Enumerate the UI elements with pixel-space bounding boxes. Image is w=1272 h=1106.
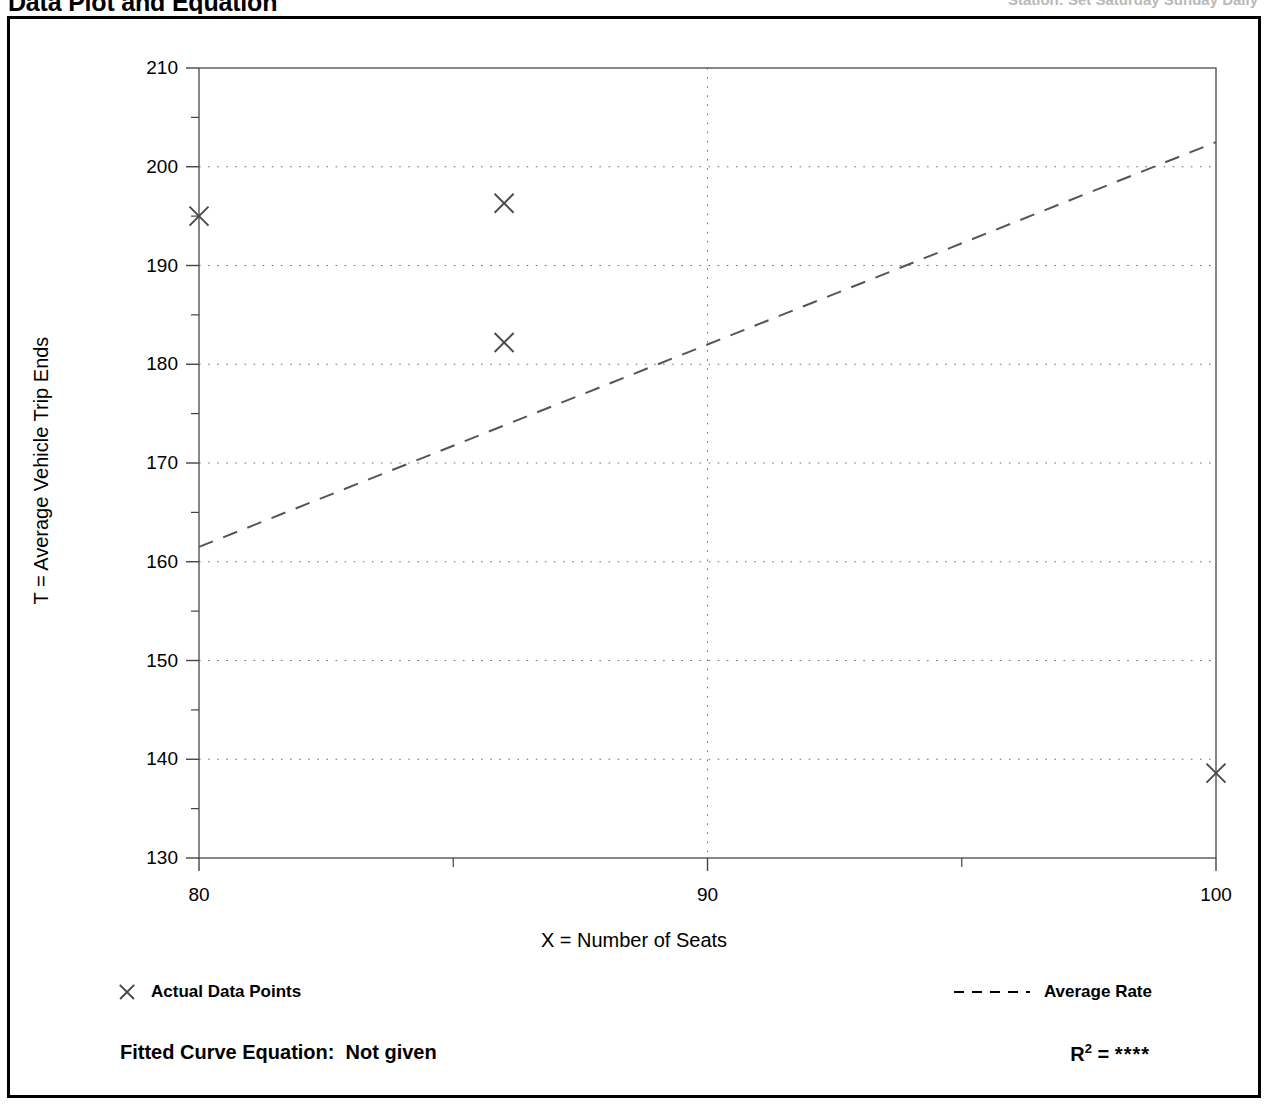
header-strip: Data Plot and Equation Station: Set Satu… (0, 0, 1272, 14)
legend-label-actual-data-points: Actual Data Points (151, 982, 301, 1002)
r-squared-label: R (1070, 1043, 1084, 1065)
chart-canvas: T = Average Vehicle Trip Ends X = Number… (10, 19, 1258, 1095)
legend-item-average-rate: Average Rate (954, 982, 1152, 1002)
r-squared-equals: = (1098, 1043, 1110, 1065)
chart-panel: T = Average Vehicle Trip Ends X = Number… (7, 16, 1261, 1098)
dashed-line-icon (954, 991, 1030, 993)
header-subtitle: Station: Set Saturday Sunday Daily (1008, 0, 1258, 8)
page-title: Data Plot and Equation (8, 0, 277, 14)
chart-legend: Actual Data Points Average Rate (10, 982, 1258, 1018)
r-squared-value: R2 = **** (1070, 1041, 1150, 1066)
data-point-marker (495, 194, 514, 213)
fitted-curve-equation: Fitted Curve Equation: Not given (120, 1041, 437, 1064)
x-marker-icon (117, 982, 137, 1002)
fitted-equation-value: Not given (346, 1041, 437, 1063)
equation-row: Fitted Curve Equation: Not given R2 = **… (10, 1041, 1258, 1081)
plot-area (10, 19, 1258, 1095)
fitted-equation-label: Fitted Curve Equation: (120, 1041, 334, 1063)
legend-item-actual-data-points: Actual Data Points (117, 982, 301, 1002)
average-rate-line (199, 142, 1216, 547)
legend-label-average-rate: Average Rate (1044, 982, 1152, 1002)
r-squared-stars: **** (1115, 1043, 1150, 1065)
data-point-marker (495, 333, 514, 352)
r-squared-exponent: 2 (1085, 1041, 1092, 1056)
